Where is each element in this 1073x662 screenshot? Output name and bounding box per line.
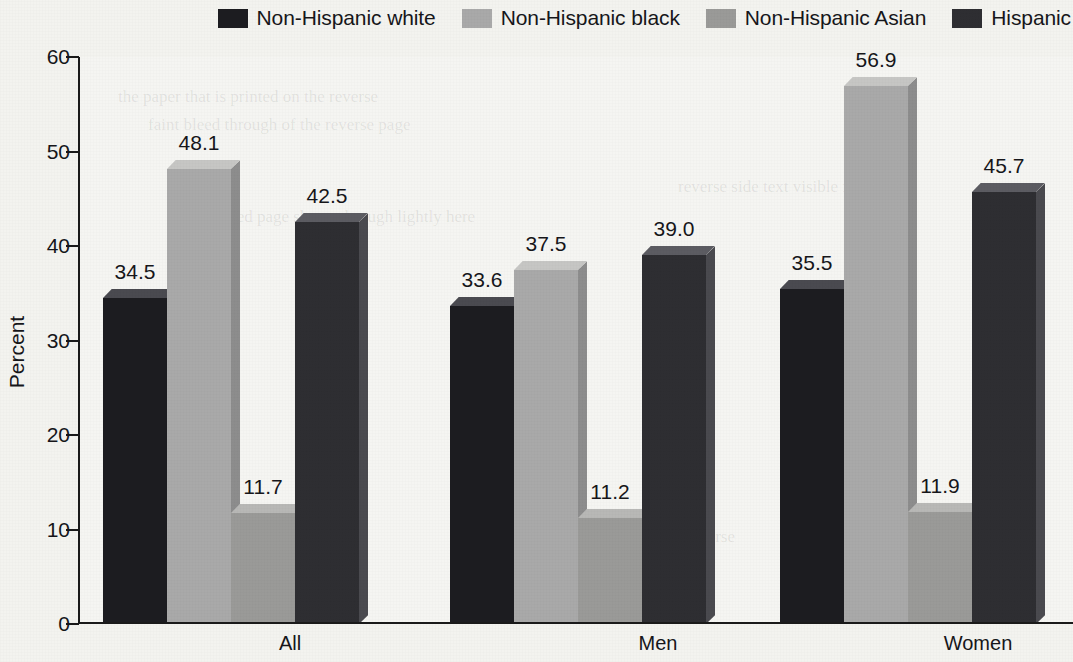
chart-legend: Non-Hispanic whiteNon-Hispanic blackNon-… [0,0,1073,36]
bar-value-label: 37.5 [526,232,567,256]
bar-value-label: 11.2 [590,480,629,504]
bar-value-label: 11.9 [920,474,959,498]
legend-swatch-icon [462,9,492,28]
bar-top-face [642,246,715,255]
y-axis-tick-label: 60 [10,45,70,69]
x-axis-line [78,622,1073,624]
legend-item: Non-Hispanic black [462,6,680,30]
bar-top-face [780,280,853,289]
bar-front-face [450,306,514,624]
bar: 37.5 [514,270,578,624]
legend-item: Non-Hispanic Asian [706,6,926,30]
bar-front-face [103,298,167,624]
bar-front-face [844,86,908,624]
bar-value-label: 45.7 [984,154,1025,178]
bar: 11.9 [908,512,972,624]
legend-item: Non-Hispanic white [218,6,436,30]
bar-front-face [514,270,578,624]
bar-top-face [450,297,523,306]
bar-chart: Non-Hispanic whiteNon-Hispanic blackNon-… [0,0,1073,662]
legend-label: Non-Hispanic Asian [745,6,926,30]
bar-value-label: 39.0 [654,217,695,241]
bar-top-face [972,183,1045,192]
y-axis-tick-label: 20 [10,423,70,447]
bar-front-face [642,255,706,624]
bar-value-label: 33.6 [462,268,503,292]
bar-front-face [578,518,642,624]
legend-label: Non-Hispanic black [501,6,680,30]
bar-top-face [578,509,651,518]
bar: 45.7 [972,192,1036,624]
legend-item: Hispanic [952,6,1071,30]
legend-label: Hispanic [991,6,1071,30]
x-axis-category-label: Men [639,632,678,655]
bar: 48.1 [167,169,231,624]
x-axis-category-label: All [279,632,301,655]
bar: 56.9 [844,86,908,624]
bar: 33.6 [450,306,514,624]
bar-top-face [295,213,368,222]
bar-top-face [514,261,587,270]
ghost-text: the paper that is printed on the reverse [118,87,378,107]
bar-top-face [103,289,176,298]
bar-front-face [780,289,844,624]
y-axis-tick-label: 50 [10,140,70,164]
bar: 11.2 [578,518,642,624]
bar-front-face [167,169,231,624]
legend-label: Non-Hispanic white [257,6,436,30]
bar: 11.7 [231,513,295,624]
bar-side-face [706,247,715,624]
bar-value-label: 11.7 [243,475,282,499]
y-axis-tick-label: 0 [10,612,70,636]
bar-front-face [231,513,295,624]
bar: 34.5 [103,298,167,624]
bar-front-face [972,192,1036,624]
y-axis-tick-label: 40 [10,234,70,258]
plot-area: the paper that is printed on the reverse… [78,57,1073,624]
bar-value-label: 56.9 [856,48,897,72]
bar-value-label: 35.5 [792,251,833,275]
bar: 35.5 [780,289,844,624]
legend-swatch-icon [218,9,248,28]
bar-side-face [359,214,368,624]
bar: 39.0 [642,255,706,624]
y-axis-tick-label: 30 [10,329,70,353]
bar-value-label: 34.5 [115,260,156,284]
bar: 42.5 [295,222,359,624]
bar-top-face [908,503,981,512]
bar-top-face [231,504,304,513]
x-axis-category-label: Women [944,632,1013,655]
legend-swatch-icon [952,9,982,28]
bar-value-label: 42.5 [307,184,348,208]
bar-top-face [167,160,240,169]
bar-side-face [1036,183,1045,624]
y-axis-tick-label: 10 [10,518,70,542]
legend-swatch-icon [706,9,736,28]
bar-top-face [844,77,917,86]
bar-front-face [908,512,972,624]
bar-value-label: 48.1 [179,131,220,155]
bar-front-face [295,222,359,624]
